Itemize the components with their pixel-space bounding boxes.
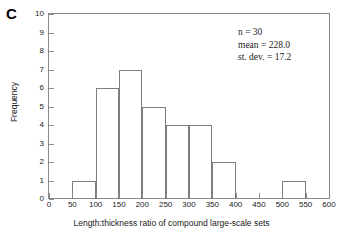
- y-tick-label: 5: [22, 103, 44, 111]
- x-tick-mark: [166, 193, 167, 198]
- x-tick-mark: [282, 193, 283, 198]
- y-tick-mark: [49, 107, 54, 108]
- y-tick-label: 8: [22, 47, 44, 55]
- histogram-bar: [189, 125, 212, 199]
- histogram-bar: [142, 107, 165, 200]
- histogram-bar: [282, 181, 305, 200]
- histogram-bar: [212, 162, 235, 199]
- x-tick-mark: [212, 193, 213, 198]
- y-tick-mark: [49, 162, 54, 163]
- x-tick-mark: [329, 193, 330, 198]
- y-tick-label: 3: [22, 140, 44, 148]
- x-tick-mark: [306, 193, 307, 198]
- y-tick-mark: [49, 144, 54, 145]
- x-tick-mark: [142, 193, 143, 198]
- y-tick-label: 4: [22, 121, 44, 129]
- x-tick-mark: [49, 193, 50, 198]
- x-tick-mark: [119, 193, 120, 198]
- stat-mean: mean = 228.0: [238, 39, 291, 52]
- y-tick-label: 1: [22, 177, 44, 185]
- y-axis-title: Frequency: [9, 72, 19, 132]
- x-tick-mark: [259, 193, 260, 198]
- x-axis-title: Length:thickness ratio of compound large…: [0, 218, 343, 228]
- x-tick-mark: [72, 193, 73, 198]
- x-tick-mark: [236, 193, 237, 198]
- y-tick-mark: [49, 14, 54, 15]
- histogram-bar: [166, 125, 189, 199]
- panel-label: C: [6, 6, 17, 21]
- y-tick-label: 7: [22, 66, 44, 74]
- x-tick-mark: [96, 193, 97, 198]
- y-tick-mark: [49, 51, 54, 52]
- y-tick-mark: [49, 88, 54, 89]
- histogram-bar: [96, 88, 119, 199]
- y-tick-label: 2: [22, 158, 44, 166]
- y-tick-label: 10: [22, 10, 44, 18]
- y-tick-label: 9: [22, 29, 44, 37]
- histogram-figure: C 012345678910 0501001502002503003504004…: [0, 0, 343, 235]
- y-tick-mark: [49, 33, 54, 34]
- stats-annotation: n = 30 mean = 228.0 st. dev. = 17.2: [238, 26, 291, 64]
- y-tick-mark: [49, 125, 54, 126]
- stat-n: n = 30: [238, 26, 291, 39]
- x-tick-mark: [189, 193, 190, 198]
- histogram-bar: [119, 70, 142, 200]
- y-tick-mark: [49, 70, 54, 71]
- y-tick-mark: [49, 181, 54, 182]
- histogram-bar: [72, 181, 95, 200]
- stat-stdev: st. dev. = 17.2: [238, 51, 291, 64]
- x-tick-label: 600: [314, 201, 343, 209]
- y-tick-label: 6: [22, 84, 44, 92]
